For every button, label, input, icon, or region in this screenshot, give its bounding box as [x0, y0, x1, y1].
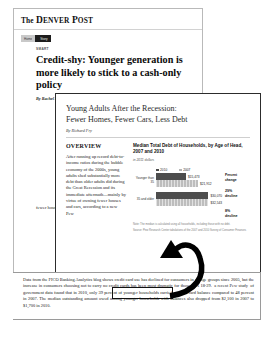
chart-plot-area: Younger than 35 $15,473 $21,912	[133, 173, 222, 218]
link-highlight-box	[112, 287, 173, 299]
article-kicker: SMART	[36, 47, 202, 51]
chart-title: Median Total Debt of Households, by Age …	[133, 143, 252, 155]
bar-group-older: 35 and older $30,070 $32,543	[133, 192, 222, 206]
bar-older-2007	[156, 199, 208, 206]
report-divider	[66, 137, 250, 138]
breadcrumb[interactable]: Home Story	[21, 35, 69, 42]
bar-older-2010	[156, 192, 208, 199]
breadcrumb-item-story[interactable]: Story	[35, 35, 50, 42]
pew-study-link[interactable]: a recent Pew study	[213, 283, 249, 288]
bar-row-younger-2007: $21,912	[156, 180, 222, 187]
percent-change-column: Percent change 29% decline 8% decline	[222, 173, 252, 218]
report-panel: Young Adults After the Recession: Fewer …	[55, 93, 261, 286]
bar-value-younger-2010: $15,473	[186, 175, 200, 179]
chart-note: Note: The median is calculated using all…	[133, 223, 252, 227]
report-title: Young Adults After the Recession: Fewer …	[66, 104, 250, 125]
chart-plot-and-pct: Younger than 35 $15,473 $21,912	[133, 173, 252, 218]
chart-column: Median Total Debt of Households, by Age …	[133, 143, 252, 233]
category-label-younger: Younger than 35	[133, 176, 156, 184]
masthead-post: POST	[72, 15, 93, 25]
percent-change-older-direction: decline	[225, 214, 252, 219]
legend-swatch-icon-2007	[179, 169, 182, 172]
bar-group-younger: Younger than 35 $15,473 $21,912	[133, 173, 222, 187]
screenshot-root: The DENVER POST Home Story SMART Credit-…	[0, 0, 277, 338]
overview-heading: OVERVIEW	[66, 143, 126, 149]
report-title-line1: Young Adults After the Recession:	[66, 104, 250, 115]
report-byline: By Richard Fry	[66, 128, 260, 133]
masthead-denver: DENVER	[36, 15, 69, 25]
report-columns: OVERVIEW After running up record debt-to…	[66, 143, 252, 233]
overview-text: After running up record debt-to-income r…	[66, 154, 126, 217]
bar-value-older-2007: $32,543	[208, 201, 222, 205]
chart-subtitle: in 2011 dollars	[133, 158, 252, 162]
legend-item-2010: 2010	[156, 168, 167, 172]
bars-younger: $15,473 $21,912	[156, 173, 222, 187]
category-label-older: 35 and older	[133, 197, 156, 201]
legend-label-2010: 2010	[160, 168, 167, 172]
percent-change-younger-direction: decline	[225, 194, 252, 199]
chart-legend: 2010 2007	[156, 166, 252, 173]
chart-footnotes: Note: The median is calculated using all…	[133, 223, 252, 233]
bar-value-younger-2007: $21,912	[198, 182, 212, 186]
masthead-title: The DENVER POST	[21, 15, 195, 25]
bar-row-older-2010: $30,070	[156, 192, 222, 199]
overview-column: OVERVIEW After running up record debt-to…	[66, 143, 126, 233]
bar-value-older-2010: $30,070	[208, 194, 222, 198]
bar-younger-2007	[156, 180, 198, 187]
article-headline: Credit-shy: Younger generation is more l…	[36, 54, 190, 92]
bar-row-older-2007: $32,543	[156, 199, 222, 206]
masthead: The DENVER POST	[14, 9, 202, 30]
bar-chart: 2010 2007 Younger than 35	[133, 166, 252, 232]
bar-row-younger-2010: $15,473	[156, 173, 222, 180]
masthead-the: The	[21, 16, 34, 25]
legend-swatch-icon-2010	[156, 169, 159, 172]
bars-older: $30,070 $32,543	[156, 192, 222, 206]
chart-source: Source: Pew Research Center tabulations …	[133, 229, 252, 233]
legend-label-2007: 2007	[183, 168, 190, 172]
report-title-line2: Fewer Homes, Fewer Cars, Less Debt	[66, 115, 250, 126]
percent-change-header-line2: change	[225, 178, 252, 182]
bar-younger-2010	[156, 173, 186, 180]
legend-item-2007: 2007	[179, 168, 190, 172]
